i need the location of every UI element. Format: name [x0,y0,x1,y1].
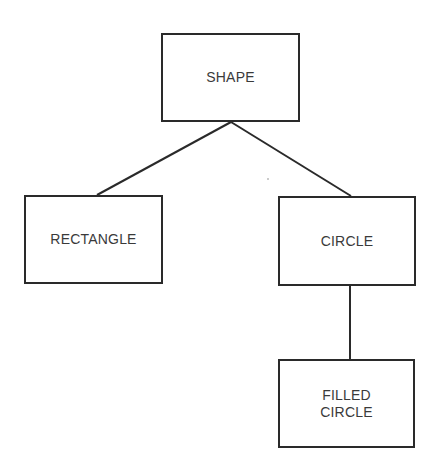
inheritance-diagram: SHAPE RECTANGLE CIRCLE FILLED CIRCLE [0,0,439,469]
node-shape: SHAPE [161,33,300,122]
node-circle: CIRCLE [278,196,416,286]
node-shape-label: SHAPE [206,69,254,86]
edge-shape-rectangle [97,122,231,195]
edge-shape-circle [231,122,351,196]
node-filled-circle: FILLED CIRCLE [278,359,415,448]
node-circle-label: CIRCLE [321,233,374,250]
stray-dot [267,178,269,180]
node-rectangle: RECTANGLE [24,195,163,284]
node-rectangle-label: RECTANGLE [50,231,136,248]
node-filled-circle-label: FILLED CIRCLE [320,387,373,421]
